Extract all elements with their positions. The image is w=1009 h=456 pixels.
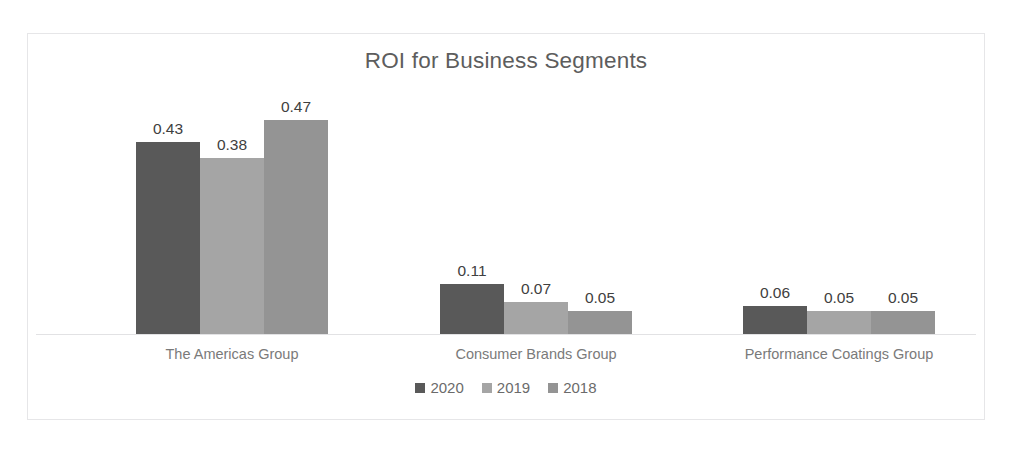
bar-value-label: 0.05: [585, 289, 615, 307]
bar-value-label: 0.05: [888, 289, 918, 307]
bar-group: 0.43 0.38 0.47 The Americas Group: [136, 34, 328, 334]
bar-wrap[interactable]: 0.38: [200, 34, 264, 334]
bar-2019[interactable]: [200, 158, 264, 334]
bar-group-bars: 0.06 0.05 0.05: [743, 34, 935, 334]
bar-group: 0.06 0.05 0.05 Performance Coatings Grou…: [743, 34, 935, 334]
category-label: Performance Coatings Group: [745, 346, 934, 362]
bar-wrap[interactable]: 0.43: [136, 34, 200, 334]
legend-item-2019[interactable]: 2019: [482, 379, 530, 396]
bar-2020[interactable]: [743, 306, 807, 334]
bar-group: 0.11 0.07 0.05 Consumer Brands Group: [440, 34, 632, 334]
bar-value-label: 0.38: [217, 136, 247, 154]
category-axis-line: [36, 334, 976, 335]
legend-label: 2019: [497, 379, 530, 396]
scan-surface: ROI for Business Segments 0.43 0.38 0.47: [0, 0, 1009, 456]
bar-2020[interactable]: [440, 284, 504, 334]
bar-2019[interactable]: [807, 311, 871, 334]
category-label: The Americas Group: [166, 346, 299, 362]
bar-wrap[interactable]: 0.07: [504, 34, 568, 334]
bar-wrap[interactable]: 0.05: [807, 34, 871, 334]
chart-card: ROI for Business Segments 0.43 0.38 0.47: [27, 33, 985, 420]
bar-2020[interactable]: [136, 142, 200, 334]
legend-swatch-icon: [415, 383, 425, 393]
bar-value-label: 0.05: [824, 289, 854, 307]
bar-value-label: 0.43: [153, 120, 183, 138]
bar-2018[interactable]: [568, 311, 632, 334]
bar-wrap[interactable]: 0.05: [568, 34, 632, 334]
bar-value-label: 0.11: [457, 262, 486, 280]
legend-label: 2020: [430, 379, 463, 396]
bar-wrap[interactable]: 0.11: [440, 34, 504, 334]
legend-swatch-icon: [482, 383, 492, 393]
bar-group-bars: 0.11 0.07 0.05: [440, 34, 632, 334]
bar-value-label: 0.47: [281, 98, 311, 116]
bar-value-label: 0.06: [760, 284, 790, 302]
bar-2018[interactable]: [264, 120, 328, 334]
bar-group-bars: 0.43 0.38 0.47: [136, 34, 328, 334]
bar-2019[interactable]: [504, 302, 568, 334]
legend-item-2018[interactable]: 2018: [548, 379, 596, 396]
category-label: Consumer Brands Group: [455, 346, 616, 362]
bar-wrap[interactable]: 0.05: [871, 34, 935, 334]
bar-2018[interactable]: [871, 311, 935, 334]
legend-item-2020[interactable]: 2020: [415, 379, 463, 396]
legend-label: 2018: [563, 379, 596, 396]
chart-legend: 2020 2019 2018: [28, 379, 984, 396]
bar-wrap[interactable]: 0.06: [743, 34, 807, 334]
legend-swatch-icon: [548, 383, 558, 393]
plot-area: 0.43 0.38 0.47 The Americas Group: [28, 34, 984, 335]
bar-wrap[interactable]: 0.47: [264, 34, 328, 334]
bar-value-label: 0.07: [521, 280, 551, 298]
